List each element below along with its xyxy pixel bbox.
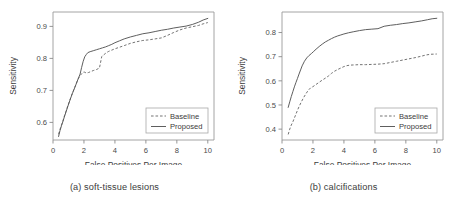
legend-item-proposed-label: Proposed (170, 122, 203, 131)
curve-proposed (288, 18, 437, 107)
x-tick-label: 10 (433, 146, 441, 155)
y-axis-title: Sensitivity (237, 56, 247, 95)
panel-a-caption: (a) soft-tissue lesions (0, 182, 229, 192)
x-tick-label: 8 (175, 146, 179, 155)
y-tick-label: 0.5 (265, 101, 276, 110)
x-tick-label: 2 (311, 146, 315, 155)
x-tick-label: 4 (342, 146, 346, 155)
x-axis-title: False Positives Per Image (314, 160, 412, 165)
panel-a-plot: 02468100.60.70.80.9False Positives Per I… (0, 0, 229, 165)
panel-b-caption: (b) calcifications (229, 182, 458, 192)
legend-item-proposed-label: Proposed (399, 122, 432, 131)
y-tick-label: 0.6 (265, 77, 276, 86)
x-tick-label: 2 (82, 146, 86, 155)
panel-b: 02468100.40.50.60.70.8False Positives Pe… (229, 0, 458, 212)
panel-b-plot: 02468100.40.50.60.70.8False Positives Pe… (229, 0, 458, 165)
panel-a: 02468100.60.70.80.9False Positives Per I… (0, 0, 229, 212)
x-tick-label: 0 (280, 146, 284, 155)
y-tick-label: 0.9 (36, 22, 47, 31)
x-tick-label: 4 (113, 146, 117, 155)
x-tick-label: 10 (204, 146, 212, 155)
y-tick-label: 0.7 (265, 52, 276, 61)
y-axis-title: Sensitivity (8, 56, 18, 95)
y-tick-label: 0.7 (36, 86, 47, 95)
froc-figure: 02468100.60.70.80.9False Positives Per I… (0, 0, 459, 212)
y-tick-label: 0.8 (36, 54, 47, 63)
y-tick-label: 0.8 (265, 28, 276, 37)
x-tick-label: 8 (404, 146, 408, 155)
x-tick-label: 0 (51, 146, 55, 155)
y-tick-label: 0.6 (36, 118, 47, 127)
x-tick-label: 6 (373, 146, 377, 155)
legend-item-baseline-label: Baseline (399, 112, 428, 121)
x-axis-title: False Positives Per Image (85, 160, 183, 165)
y-tick-label: 0.4 (265, 125, 276, 134)
x-tick-label: 6 (144, 146, 148, 155)
legend-item-baseline-label: Baseline (170, 112, 199, 121)
